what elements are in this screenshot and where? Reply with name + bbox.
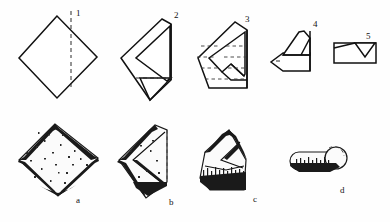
- photo-c-label: c: [253, 194, 257, 204]
- step-2-number: 2: [174, 10, 179, 20]
- photo-d-shadow-band: [290, 163, 340, 172]
- step-5-number: 5: [366, 31, 371, 41]
- photo-d-label: d: [340, 185, 345, 195]
- step-1-number: 1: [76, 8, 81, 18]
- photo-b-label: b: [169, 197, 174, 207]
- figure-plate-canvas: 1 2 3: [0, 0, 390, 222]
- figure-plate: 1 2 3: [0, 0, 390, 222]
- photo-a-label: a: [76, 195, 80, 205]
- step-4-number: 4: [313, 19, 318, 29]
- step-3-number: 3: [245, 14, 250, 24]
